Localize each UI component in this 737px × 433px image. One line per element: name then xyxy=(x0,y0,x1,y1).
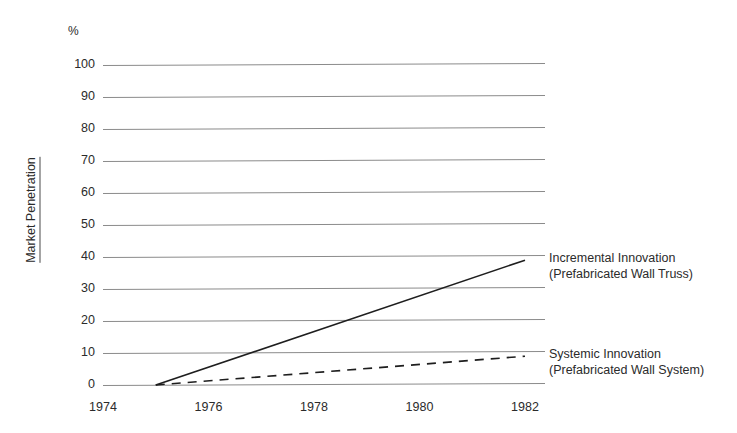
gridline xyxy=(103,320,545,322)
legend-item-1: Incremental Innovation(Prefabricated Wal… xyxy=(549,251,693,282)
legend-item-title: Incremental Innovation xyxy=(549,251,675,265)
legend-item-subtitle: (Prefabricated Wall Truss) xyxy=(549,267,693,283)
gridline xyxy=(103,384,545,386)
series-line-1 xyxy=(156,260,525,385)
gridline xyxy=(103,64,545,66)
series-lines xyxy=(156,260,525,385)
gridline xyxy=(103,96,545,98)
gridline xyxy=(103,256,545,258)
gridlines xyxy=(103,64,545,386)
gridline xyxy=(103,288,545,290)
gridline xyxy=(103,160,545,162)
gridline xyxy=(103,128,545,130)
gridline xyxy=(103,352,545,354)
legend-item-title: Systemic Innovation xyxy=(549,347,661,361)
chart-figure: % Market Penetration 0102030405060708090… xyxy=(0,0,737,433)
series-line-2 xyxy=(156,356,525,385)
gridline xyxy=(103,192,545,194)
legend-item-2: Systemic Innovation(Prefabricated Wall S… xyxy=(549,347,704,378)
legend-item-subtitle: (Prefabricated Wall System) xyxy=(549,363,704,379)
gridline xyxy=(103,224,545,226)
